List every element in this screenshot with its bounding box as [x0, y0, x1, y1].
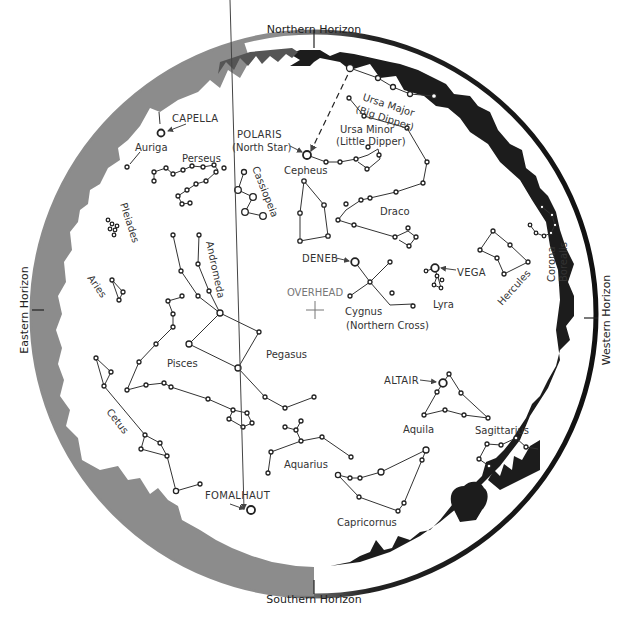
eastern-horizon-label: Eastern Horizon: [18, 266, 31, 353]
vega-label: VEGA: [457, 267, 486, 278]
lyra-label: Lyra: [433, 299, 454, 310]
auriga-label: Auriga: [135, 142, 168, 153]
altair-label: ALTAIR: [384, 375, 419, 386]
western-horizon-label: Western Horizon: [600, 275, 613, 366]
fomalhaut-label: FOMALHAUT: [205, 490, 271, 501]
fomalhaut-star: [247, 506, 255, 514]
ursa-minor-label: Ursa Minor: [340, 124, 395, 135]
draco-label: Draco: [380, 206, 410, 217]
southern-horizon-label: Southern Horizon: [266, 593, 362, 606]
sagittarius-label: Sagittarius: [475, 425, 529, 436]
overhead-label: OVERHEAD: [287, 287, 343, 298]
pisces-label: Pisces: [167, 358, 198, 369]
northern-horizon-label: Northern Horizon: [267, 23, 361, 36]
capella-label: CAPELLA: [172, 113, 219, 124]
aquila-label: Aquila: [403, 424, 434, 435]
sky-chart: Northern Horizon Southern Horizon Easter…: [0, 0, 629, 619]
aquarius-label: Aquarius: [284, 459, 328, 470]
cygnus-label: Cygnus: [345, 306, 382, 317]
corona-label: Corona: [546, 246, 557, 282]
capricornus-label: Capricornus: [337, 517, 397, 528]
polaris-label: POLARIS: [237, 129, 282, 140]
cepheus-label: Cepheus: [284, 165, 328, 176]
polaris-sub-label: (North Star): [232, 142, 292, 153]
borealis-label: Borealis: [558, 242, 569, 282]
cygnus-sub-label: (Northern Cross): [346, 320, 429, 331]
perseus-label: Perseus: [182, 153, 221, 164]
ursa-minor-sub-label: (Little Dipper): [336, 136, 406, 147]
pegasus-label: Pegasus: [266, 349, 307, 360]
deneb-label: DENEB: [302, 253, 338, 264]
